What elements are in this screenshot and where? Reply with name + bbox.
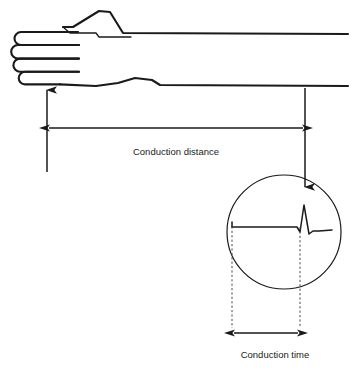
hand-lower-contour — [60, 78, 348, 86]
hand-and-forearm-outline — [11, 11, 348, 86]
conduction-distance-label: Conduction distance — [133, 146, 219, 157]
hand-upper-contour — [63, 11, 348, 34]
conduction-diagram: Conduction distance Conduction time — [0, 0, 353, 376]
middle-finger — [11, 45, 79, 59]
index-finger — [15, 32, 80, 45]
waveform-path — [232, 205, 332, 234]
compound-muscle-action-potential-trace — [232, 205, 332, 234]
diagram-canvas: Conduction distance Conduction time — [0, 0, 353, 376]
conduction-time-label: Conduction time — [241, 349, 310, 360]
little-finger — [19, 72, 79, 85]
ring-finger — [13, 59, 79, 72]
waveform-inset-circle — [227, 175, 341, 289]
